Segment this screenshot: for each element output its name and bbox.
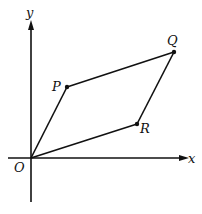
parallelogram-diagram: y x O P Q R xyxy=(0,0,202,214)
point-R-label: R xyxy=(139,121,150,136)
origin-label: O xyxy=(14,160,25,175)
edge-RO xyxy=(31,124,137,158)
point-Q-dot xyxy=(172,50,176,54)
parallelogram xyxy=(31,52,174,158)
y-axis-arrow-icon xyxy=(28,20,34,30)
point-Q-label: Q xyxy=(167,33,178,48)
point-P-dot xyxy=(65,85,69,89)
point-P-label: P xyxy=(51,79,61,94)
point-R-dot xyxy=(135,122,139,126)
y-axis xyxy=(28,20,34,202)
x-axis-label: x xyxy=(188,151,196,166)
y-axis-label: y xyxy=(25,5,34,20)
